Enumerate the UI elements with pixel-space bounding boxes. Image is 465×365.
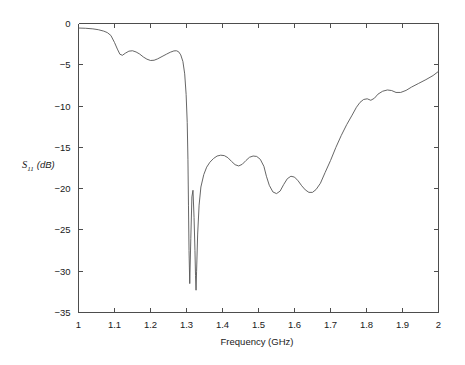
plot-frame	[79, 24, 439, 313]
y-tick-label: −20	[54, 183, 70, 194]
x-axis-title: Frequency (GHz)	[221, 336, 294, 347]
x-axis-ticks	[79, 24, 439, 313]
x-tick-label: 1.6	[288, 319, 301, 330]
x-tick-label: 1.2	[144, 319, 157, 330]
y-axis-subscript: 11	[27, 165, 33, 173]
y-tick-label: −10	[54, 101, 70, 112]
x-tick-label: 1.5	[252, 319, 265, 330]
x-tick-label: 2	[436, 319, 441, 330]
y-axis-ticks	[79, 24, 439, 313]
y-axis-unit: (dB)	[37, 159, 55, 170]
y-tick-label: 0	[65, 18, 70, 29]
x-axis-tick-labels: 11.11.21.31.41.51.61.71.81.92	[76, 319, 441, 330]
y-tick-label: −5	[60, 59, 71, 70]
y-tick-label: −30	[54, 266, 70, 277]
y-axis-tick-labels: 0−5−10−15−20−25−30−35	[54, 18, 70, 318]
y-tick-label: −15	[54, 142, 70, 153]
y-axis-title: S11(dB)	[22, 159, 55, 173]
x-tick-label: 1.9	[396, 319, 409, 330]
data-series-s11	[79, 28, 439, 290]
x-tick-label: 1.1	[108, 319, 121, 330]
x-tick-label: 1	[76, 319, 81, 330]
chart-figure: 11.11.21.31.41.51.61.71.81.92 0−5−10−15−…	[0, 0, 465, 365]
x-tick-label: 1.8	[360, 319, 373, 330]
x-tick-label: 1.4	[216, 319, 229, 330]
s11-line-chart: 11.11.21.31.41.51.61.71.81.92 0−5−10−15−…	[0, 0, 465, 365]
y-tick-label: −35	[54, 307, 70, 318]
y-tick-label: −25	[54, 224, 70, 235]
x-tick-label: 1.7	[324, 319, 337, 330]
x-tick-label: 1.3	[180, 319, 193, 330]
